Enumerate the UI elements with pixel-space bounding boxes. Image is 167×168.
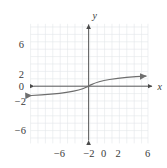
y-tick-label-2: 2 — [19, 69, 24, 80]
y-tick-label-0: 0 — [19, 81, 24, 92]
y-tick-label-neg6: −6 — [15, 125, 26, 136]
y-tick-label-neg2: −2 — [15, 96, 26, 107]
x-tick-label-6: 6 — [145, 148, 150, 159]
x-tick-label-0: 0 — [101, 148, 106, 159]
coordinate-plane: 6 2 0 −2 −6 −6 −2 0 2 6 y x — [0, 0, 167, 168]
y-tick-label-6: 6 — [19, 39, 24, 50]
y-axis-label: y — [92, 10, 98, 21]
x-axis-label: x — [157, 81, 163, 92]
x-tick-label-neg6: −6 — [54, 148, 65, 159]
x-tick-label-neg2: −2 — [83, 148, 94, 159]
chart-gridlines — [31, 24, 148, 144]
graph-figure: 6 2 0 −2 −6 −6 −2 0 2 6 y x — [0, 0, 167, 168]
x-tick-label-2: 2 — [115, 148, 120, 159]
